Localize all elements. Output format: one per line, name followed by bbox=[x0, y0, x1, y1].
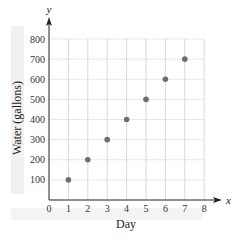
y-axis-variable: y bbox=[46, 3, 52, 15]
y-tick-label: 700 bbox=[30, 54, 45, 65]
x-tick-label: 8 bbox=[202, 203, 207, 214]
data-point bbox=[182, 56, 188, 62]
data-point bbox=[124, 117, 130, 123]
x-axis-variable: x bbox=[225, 194, 231, 206]
x-axis-label: Day bbox=[116, 217, 136, 231]
data-point bbox=[143, 97, 149, 103]
tick-labels: 012345678100200300400500600700800 bbox=[30, 34, 207, 215]
data-point bbox=[85, 157, 91, 163]
y-tick-label: 600 bbox=[30, 74, 45, 85]
x-tick-label: 6 bbox=[163, 203, 168, 214]
y-axis-label: Water (gallons) bbox=[10, 81, 24, 155]
scatter-chart: 012345678100200300400500600700800 Day Wa… bbox=[0, 0, 242, 238]
x-tick-label: 1 bbox=[66, 203, 71, 214]
y-tick-label: 500 bbox=[30, 94, 45, 105]
axes bbox=[46, 17, 222, 203]
x-tick-label: 4 bbox=[124, 203, 129, 214]
data-point bbox=[104, 137, 110, 143]
y-tick-label: 100 bbox=[30, 174, 45, 185]
data-point bbox=[66, 177, 72, 183]
y-tick-label: 200 bbox=[30, 154, 45, 165]
y-tick-label: 400 bbox=[30, 114, 45, 125]
x-tick-label: 7 bbox=[182, 203, 187, 214]
data-point bbox=[163, 76, 169, 82]
x-tick-label: 5 bbox=[144, 203, 149, 214]
y-tick-label: 800 bbox=[30, 34, 45, 45]
x-tick-label: 3 bbox=[105, 203, 110, 214]
y-tick-label: 300 bbox=[30, 134, 45, 145]
x-tick-label: 2 bbox=[85, 203, 90, 214]
x-tick-label: 0 bbox=[47, 203, 52, 214]
